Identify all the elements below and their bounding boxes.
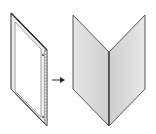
arrow-head-icon [60, 77, 65, 83]
rivet-bottom [42, 116, 44, 118]
frame-inner [15, 22, 41, 117]
folded-panels [73, 15, 145, 126]
panel-right [109, 15, 145, 126]
fold-diagram [0, 0, 156, 134]
panel-left [73, 15, 109, 126]
transition-arrow [52, 77, 65, 83]
rivet-top [42, 54, 44, 56]
flat-frame [11, 13, 47, 126]
